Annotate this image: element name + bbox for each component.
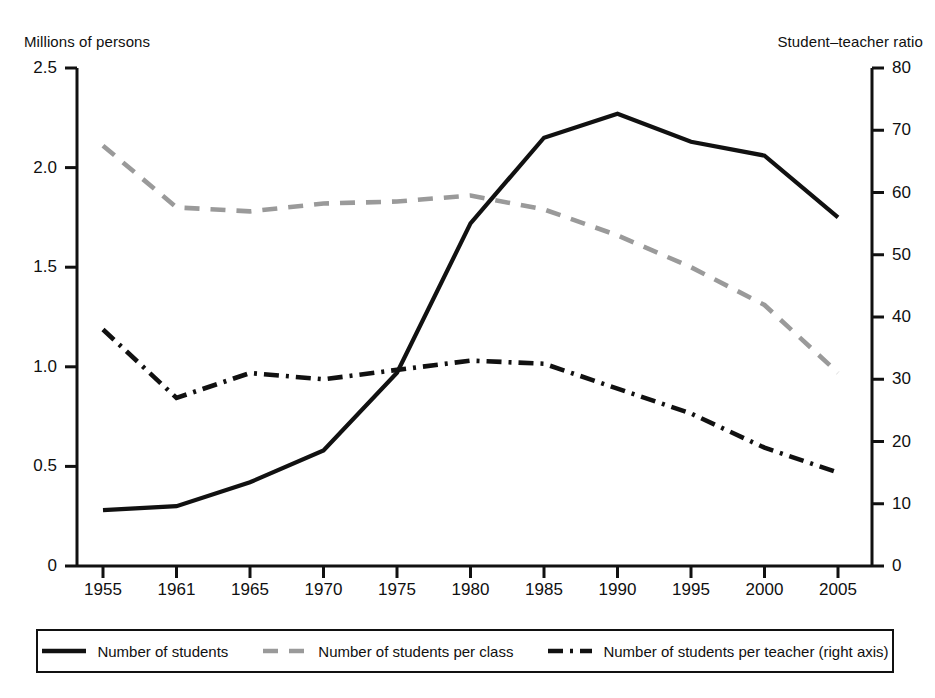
x-axis-tick-label: 1965 (231, 580, 269, 600)
left-axis-tick-label: 0.5 (0, 456, 57, 476)
series-line-3 (103, 330, 838, 473)
left-axis-tick-label: 2.0 (0, 158, 57, 178)
left-axis-tick-label: 1.5 (0, 257, 57, 277)
series-line-2 (103, 146, 838, 373)
solid-line-swatch (41, 645, 87, 657)
chart-root: Millions of persons Student–teacher rati… (0, 0, 935, 698)
x-axis-tick-label: 1975 (378, 580, 416, 600)
x-axis-tick-label: 2000 (746, 580, 784, 600)
legend-item[interactable]: Number of students per class (262, 643, 513, 660)
legend-item[interactable]: Number of students per teacher (right ax… (547, 643, 888, 660)
legend-label: Number of students per class (318, 643, 513, 660)
x-axis-tick-label: 1970 (305, 580, 343, 600)
right-axis-tick-label: 50 (892, 245, 911, 265)
legend-label: Number of students (97, 643, 228, 660)
x-axis-tick-label: 1990 (599, 580, 637, 600)
x-axis-tick-label: 1955 (84, 580, 122, 600)
right-axis-tick-label: 40 (892, 307, 911, 327)
right-axis-tick-label: 30 (892, 369, 911, 389)
right-axis-tick-label: 0 (892, 556, 901, 576)
right-axis-tick-label: 80 (892, 58, 911, 78)
dashed-line-swatch (262, 645, 308, 657)
left-axis-tick-label: 2.5 (0, 58, 57, 78)
right-axis-tick-label: 20 (892, 432, 911, 452)
x-axis-tick-label: 1995 (672, 580, 710, 600)
chart-canvas (0, 0, 935, 620)
legend-item[interactable]: Number of students (41, 643, 228, 660)
x-axis-tick-label: 2005 (819, 580, 857, 600)
x-axis-tick-label: 1961 (158, 580, 196, 600)
right-axis-tick-label: 10 (892, 494, 911, 514)
chart-legend: Number of studentsNumber of students per… (36, 629, 894, 673)
legend-label: Number of students per teacher (right ax… (603, 643, 888, 660)
left-axis-tick-label: 1.0 (0, 357, 57, 377)
right-axis-tick-label: 70 (892, 120, 911, 140)
series-line-1 (103, 114, 838, 510)
x-axis-tick-label: 1980 (452, 580, 490, 600)
right-axis-tick-label: 60 (892, 183, 911, 203)
left-axis-tick-label: 0 (0, 556, 57, 576)
x-axis-tick-label: 1985 (525, 580, 563, 600)
plot-area: 2.52.01.51.00.50807060504030201001955196… (0, 0, 935, 620)
dashdot-line-swatch (547, 645, 593, 657)
